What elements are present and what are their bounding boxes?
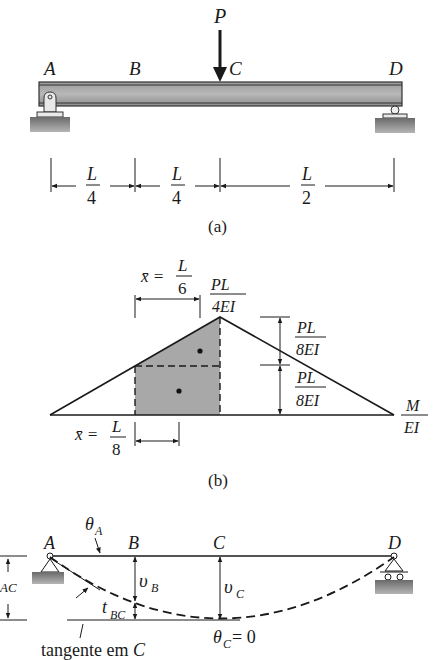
dim-L-over-4-first: L 4 bbox=[86, 164, 97, 208]
svg-text:8EI: 8EI bbox=[296, 392, 320, 409]
t-AC-label: AC bbox=[0, 580, 17, 595]
v-C-label: υ C bbox=[224, 576, 245, 601]
svg-text:PL: PL bbox=[296, 369, 316, 386]
point-B-label-c: B bbox=[128, 533, 139, 553]
dim-L-over-2: L 2 bbox=[301, 164, 312, 208]
svg-text:2: 2 bbox=[302, 188, 311, 208]
point-A-label: A bbox=[42, 58, 56, 79]
svg-text:θ: θ bbox=[85, 514, 94, 534]
peak-label: PL 4EI bbox=[210, 276, 246, 315]
point-D-label: D bbox=[388, 58, 403, 79]
xbar-L-over-8: x̄ = L 8 bbox=[74, 417, 179, 459]
point-C-label: C bbox=[229, 58, 242, 79]
pin-support-A-c bbox=[32, 553, 64, 584]
svg-text:tangente em C: tangente em C bbox=[41, 640, 146, 660]
svg-text:t: t bbox=[102, 597, 108, 617]
svg-text:θ: θ bbox=[213, 627, 222, 647]
caption-a: (a) bbox=[208, 217, 227, 236]
svg-text:L: L bbox=[171, 164, 182, 184]
svg-text:4EI: 4EI bbox=[212, 298, 236, 315]
svg-text:M: M bbox=[405, 397, 421, 414]
figure-c: θ A A B C D bbox=[0, 514, 413, 660]
svg-text:= 0: = 0 bbox=[232, 627, 256, 647]
svg-text:4: 4 bbox=[87, 188, 96, 208]
caption-b: (b) bbox=[208, 471, 228, 490]
svg-text:υ: υ bbox=[139, 570, 148, 591]
svg-text:8EI: 8EI bbox=[296, 341, 320, 358]
xbar-L-over-6: x̄ = L 6 bbox=[135, 256, 200, 318]
figure-b: x̄ = L 6 PL 4EI PL 8EI PL bbox=[50, 256, 428, 490]
beam bbox=[39, 82, 402, 106]
point-D-label-c: D bbox=[387, 533, 401, 553]
tangent-label: tangente em C bbox=[41, 640, 146, 660]
svg-text:x̄ =: x̄ = bbox=[74, 425, 98, 444]
svg-text:x̄ =: x̄ = bbox=[140, 267, 164, 286]
svg-text:C: C bbox=[236, 587, 245, 601]
v-B-label: υ B bbox=[139, 570, 159, 595]
svg-text:L: L bbox=[111, 417, 121, 436]
svg-text:L: L bbox=[86, 164, 97, 184]
height-dimension bbox=[260, 317, 290, 414]
svg-text:PL: PL bbox=[296, 319, 316, 336]
point-C-label-c: C bbox=[213, 533, 226, 553]
svg-text:L: L bbox=[301, 164, 312, 184]
svg-text:B: B bbox=[151, 581, 159, 595]
svg-text:6: 6 bbox=[178, 279, 187, 298]
point-A-label-c: A bbox=[43, 533, 56, 553]
dim-L-over-4-second: L 4 bbox=[171, 164, 182, 208]
svg-text:A: A bbox=[94, 524, 103, 538]
moment-diagram bbox=[50, 317, 394, 415]
svg-text:EI: EI bbox=[403, 419, 420, 436]
roller-support-D-c bbox=[375, 553, 413, 594]
svg-text:PL: PL bbox=[210, 276, 230, 293]
svg-text:BC: BC bbox=[110, 608, 126, 622]
point-B-label: B bbox=[129, 58, 141, 79]
theta-A-label: θ A bbox=[85, 514, 103, 553]
upper-part-label: PL 8EI bbox=[295, 319, 326, 358]
beam-diagram: P A B C D bbox=[0, 0, 444, 660]
load-label-P: P bbox=[213, 5, 226, 27]
svg-text:4: 4 bbox=[172, 188, 181, 208]
dimension-lines bbox=[51, 158, 394, 192]
svg-text:C: C bbox=[223, 637, 232, 651]
centroid-rectangle bbox=[176, 388, 181, 393]
svg-text:υ: υ bbox=[224, 576, 233, 597]
svg-text:8: 8 bbox=[112, 440, 121, 459]
svg-text:L: L bbox=[177, 256, 187, 275]
centroid-triangle bbox=[197, 348, 202, 353]
t-BC-label: t BC bbox=[102, 597, 126, 622]
axis-label-M-over-EI: M EI bbox=[401, 397, 428, 436]
theta-C-label: θ C = 0 bbox=[213, 627, 256, 651]
roller-support-D bbox=[375, 106, 415, 133]
figure-a: P A B C D bbox=[30, 5, 415, 236]
